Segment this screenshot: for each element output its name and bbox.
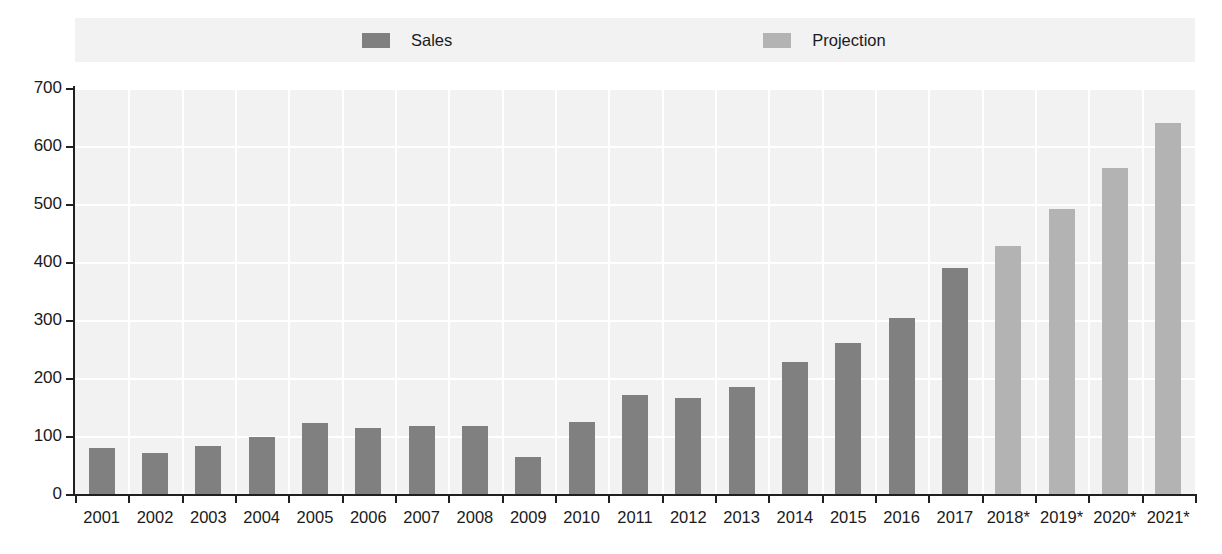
bar-slot <box>608 88 661 494</box>
bar-slot <box>182 88 235 494</box>
x-axis-tick <box>608 495 610 503</box>
x-axis-tick-label: 2003 <box>182 508 235 538</box>
bar-slot <box>235 88 288 494</box>
x-axis-tick <box>1088 495 1090 503</box>
y-axis-tick-label: 700 <box>6 78 62 98</box>
bar-slot <box>982 88 1035 494</box>
bar-2005[interactable] <box>302 423 328 494</box>
x-axis-line <box>73 494 1197 496</box>
bar-slot <box>555 88 608 494</box>
x-axis-tick <box>982 495 984 503</box>
x-axis-tick <box>342 495 344 503</box>
x-axis-tick <box>448 495 450 503</box>
bar-2012[interactable] <box>675 398 701 494</box>
y-axis-tick-label: 500 <box>6 194 62 214</box>
bar-2004[interactable] <box>249 437 275 494</box>
bar-2019-projected[interactable] <box>1049 209 1075 494</box>
legend-item-projection[interactable]: Projection <box>763 18 885 62</box>
y-axis-tick-labels: 0100200300400500600700 <box>0 0 62 554</box>
legend-item-sales[interactable]: Sales <box>362 18 452 62</box>
bar-2013[interactable] <box>729 387 755 494</box>
bar-2010[interactable] <box>569 422 595 495</box>
y-axis-tick <box>66 378 75 380</box>
bar-2018-projected[interactable] <box>995 246 1021 494</box>
x-axis-tick-label: 2016 <box>875 508 928 538</box>
bar-slot <box>288 88 341 494</box>
y-axis-tick <box>66 436 75 438</box>
bar-2006[interactable] <box>355 428 381 494</box>
x-axis-tick <box>555 495 557 503</box>
bar-2014[interactable] <box>782 362 808 494</box>
x-axis-tick <box>662 495 664 503</box>
x-axis-tick-label: 2010 <box>555 508 608 538</box>
x-axis-tick <box>715 495 717 503</box>
legend-swatch-icon-projection <box>763 33 791 48</box>
x-axis-tick-label: 2017 <box>928 508 981 538</box>
x-axis-tick-label: 2018* <box>982 508 1035 538</box>
bar-2016[interactable] <box>889 318 915 494</box>
x-axis-tick <box>1195 495 1197 503</box>
x-axis-tick <box>928 495 930 503</box>
bar-2002[interactable] <box>142 453 168 494</box>
x-axis-tick <box>502 495 504 503</box>
x-axis-tick-label: 2006 <box>342 508 395 538</box>
x-axis-tick <box>768 495 770 503</box>
bar-2011[interactable] <box>622 395 648 494</box>
bar-2020-projected[interactable] <box>1102 168 1128 494</box>
bar-slot <box>822 88 875 494</box>
bar-group <box>75 88 1195 494</box>
bar-slot <box>662 88 715 494</box>
y-axis-tick <box>66 88 75 90</box>
x-axis-tick-label: 2011 <box>608 508 661 538</box>
x-axis-tick <box>875 495 877 503</box>
bar-slot <box>715 88 768 494</box>
x-axis-tick <box>75 495 77 503</box>
bar-2001[interactable] <box>89 448 115 494</box>
x-axis-tick-label: 2005 <box>288 508 341 538</box>
y-axis-tick-label: 200 <box>6 368 62 388</box>
x-axis-tick-label: 2012 <box>662 508 715 538</box>
bar-slot <box>128 88 181 494</box>
y-axis-tick-label: 100 <box>6 426 62 446</box>
x-axis-tick <box>395 495 397 503</box>
bar-2008[interactable] <box>462 426 488 494</box>
y-axis-tick <box>66 204 75 206</box>
bar-slot <box>395 88 448 494</box>
x-axis-tick <box>822 495 824 503</box>
bar-2007[interactable] <box>409 426 435 494</box>
chart-legend: Sales Projection <box>75 18 1195 62</box>
bar-slot <box>768 88 821 494</box>
legend-label-projection: Projection <box>812 31 885 50</box>
x-axis-tick-label: 2002 <box>128 508 181 538</box>
x-axis-tick-label: 2015 <box>822 508 875 538</box>
y-axis-tick-label: 0 <box>6 484 62 504</box>
x-axis-tick-label: 2019* <box>1035 508 1088 538</box>
y-axis-tick-label: 400 <box>6 252 62 272</box>
bar-2015[interactable] <box>835 343 861 494</box>
x-axis-tick-label: 2013 <box>715 508 768 538</box>
x-axis-tick-label: 2021* <box>1142 508 1195 538</box>
y-axis-tick <box>66 320 75 322</box>
y-axis-tick-label: 600 <box>6 136 62 156</box>
y-axis-tick <box>66 494 75 496</box>
x-axis-tick <box>1035 495 1037 503</box>
x-axis-tick <box>288 495 290 503</box>
bar-slot <box>1142 88 1195 494</box>
x-axis-tick-label: 2008 <box>448 508 501 538</box>
x-axis-tick-label: 2007 <box>395 508 448 538</box>
plot-frame <box>75 88 1195 494</box>
x-axis-tick-label: 2014 <box>768 508 821 538</box>
bar-2003[interactable] <box>195 446 221 494</box>
bar-2021-projected[interactable] <box>1155 123 1181 494</box>
legend-label-sales: Sales <box>411 31 452 50</box>
bar-slot <box>502 88 555 494</box>
y-axis-tick-label: 300 <box>6 310 62 330</box>
x-axis-tick-label: 2004 <box>235 508 288 538</box>
x-axis-tick <box>182 495 184 503</box>
y-axis-tick <box>66 146 75 148</box>
bar-2017[interactable] <box>942 268 968 494</box>
bar-2009[interactable] <box>515 457 541 494</box>
bar-slot <box>342 88 395 494</box>
x-axis-tick <box>235 495 237 503</box>
bar-chart: Sales Projection 0100200300400500600700 … <box>0 0 1222 554</box>
